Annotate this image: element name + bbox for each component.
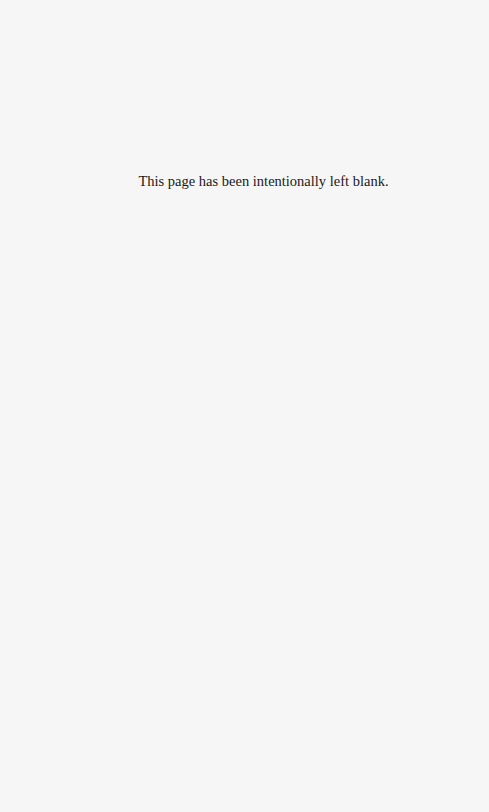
blank-page: This page has been intentionally left bl… <box>0 0 489 812</box>
blank-page-notice: This page has been intentionally left bl… <box>0 172 489 190</box>
